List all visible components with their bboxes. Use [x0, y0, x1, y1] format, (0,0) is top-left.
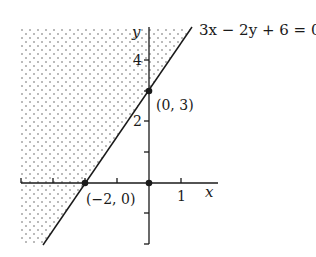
- y-axis: [144, 27, 149, 244]
- point-x-intercept: [82, 180, 89, 187]
- y-axis-label: y: [131, 23, 141, 41]
- x-axis-label: x: [205, 183, 214, 201]
- point-label-y-intercept: (0, 3): [156, 97, 194, 113]
- inequality-graph: y 4 2 1 x 3x − 2y + 6 = 0 (0, 3) (−2, 0): [0, 0, 316, 257]
- x-tick-label-1: 1: [177, 188, 186, 204]
- y-tick-label-2: 2: [133, 113, 142, 129]
- equation-label: 3x − 2y + 6 = 0: [199, 21, 316, 39]
- shaded-region: [20, 27, 192, 245]
- point-origin: [146, 180, 153, 187]
- y-tick-label-4: 4: [133, 52, 142, 68]
- point-y-intercept: [146, 88, 153, 95]
- point-label-x-intercept: (−2, 0): [86, 191, 135, 207]
